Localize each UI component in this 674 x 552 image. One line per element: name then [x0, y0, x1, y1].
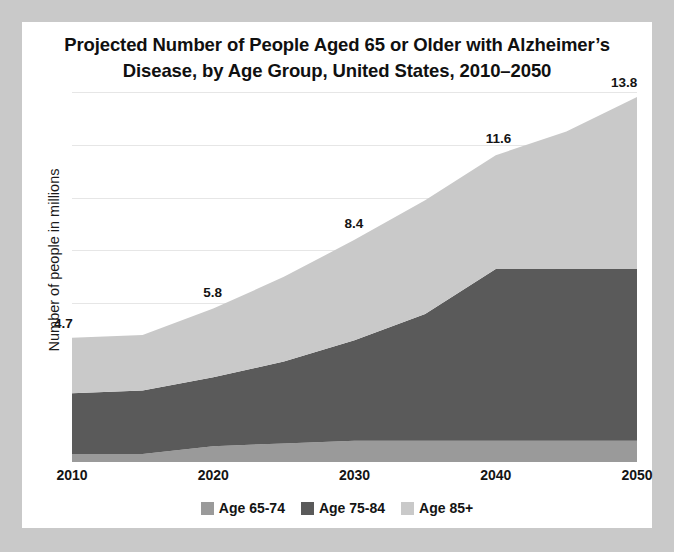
x-tick-2010: 2010 — [56, 467, 87, 483]
legend-label: Age 85+ — [419, 500, 473, 516]
legend-swatch-icon — [301, 502, 314, 515]
legend-item-age-65-74[interactable]: Age 65-74 — [201, 500, 285, 516]
legend-swatch-icon — [401, 502, 414, 515]
legend-swatch-icon — [201, 502, 214, 515]
chart-card: Projected Number of People Aged 65 or Ol… — [22, 22, 652, 528]
chart-legend: Age 65-74Age 75-84Age 85+ — [22, 500, 652, 516]
plot-area — [72, 97, 637, 462]
figure-frame: Projected Number of People Aged 65 or Ol… — [0, 0, 674, 552]
data-label-2040: 11.6 — [486, 131, 512, 146]
data-label-2030: 8.4 — [345, 216, 364, 231]
data-label-2050: 13.8 — [611, 75, 637, 90]
data-label-2020: 5.8 — [203, 285, 222, 300]
y-axis-title: Number of people in millions — [46, 110, 62, 410]
legend-label: Age 75-84 — [319, 500, 385, 516]
gridline — [72, 92, 637, 93]
x-tick-2040: 2040 — [480, 467, 511, 483]
legend-item-age-85[interactable]: Age 85+ — [401, 500, 473, 516]
data-label-2010: 4.7 — [54, 316, 73, 331]
legend-label: Age 65-74 — [219, 500, 285, 516]
x-tick-2030: 2030 — [339, 467, 370, 483]
x-tick-2050: 2050 — [621, 467, 652, 483]
x-tick-2020: 2020 — [198, 467, 229, 483]
plot-wrapper: Number of people in millions 4.75.88.411… — [22, 22, 652, 528]
legend-item-age-75-84[interactable]: Age 75-84 — [301, 500, 385, 516]
stacked-area-chart — [72, 97, 637, 462]
